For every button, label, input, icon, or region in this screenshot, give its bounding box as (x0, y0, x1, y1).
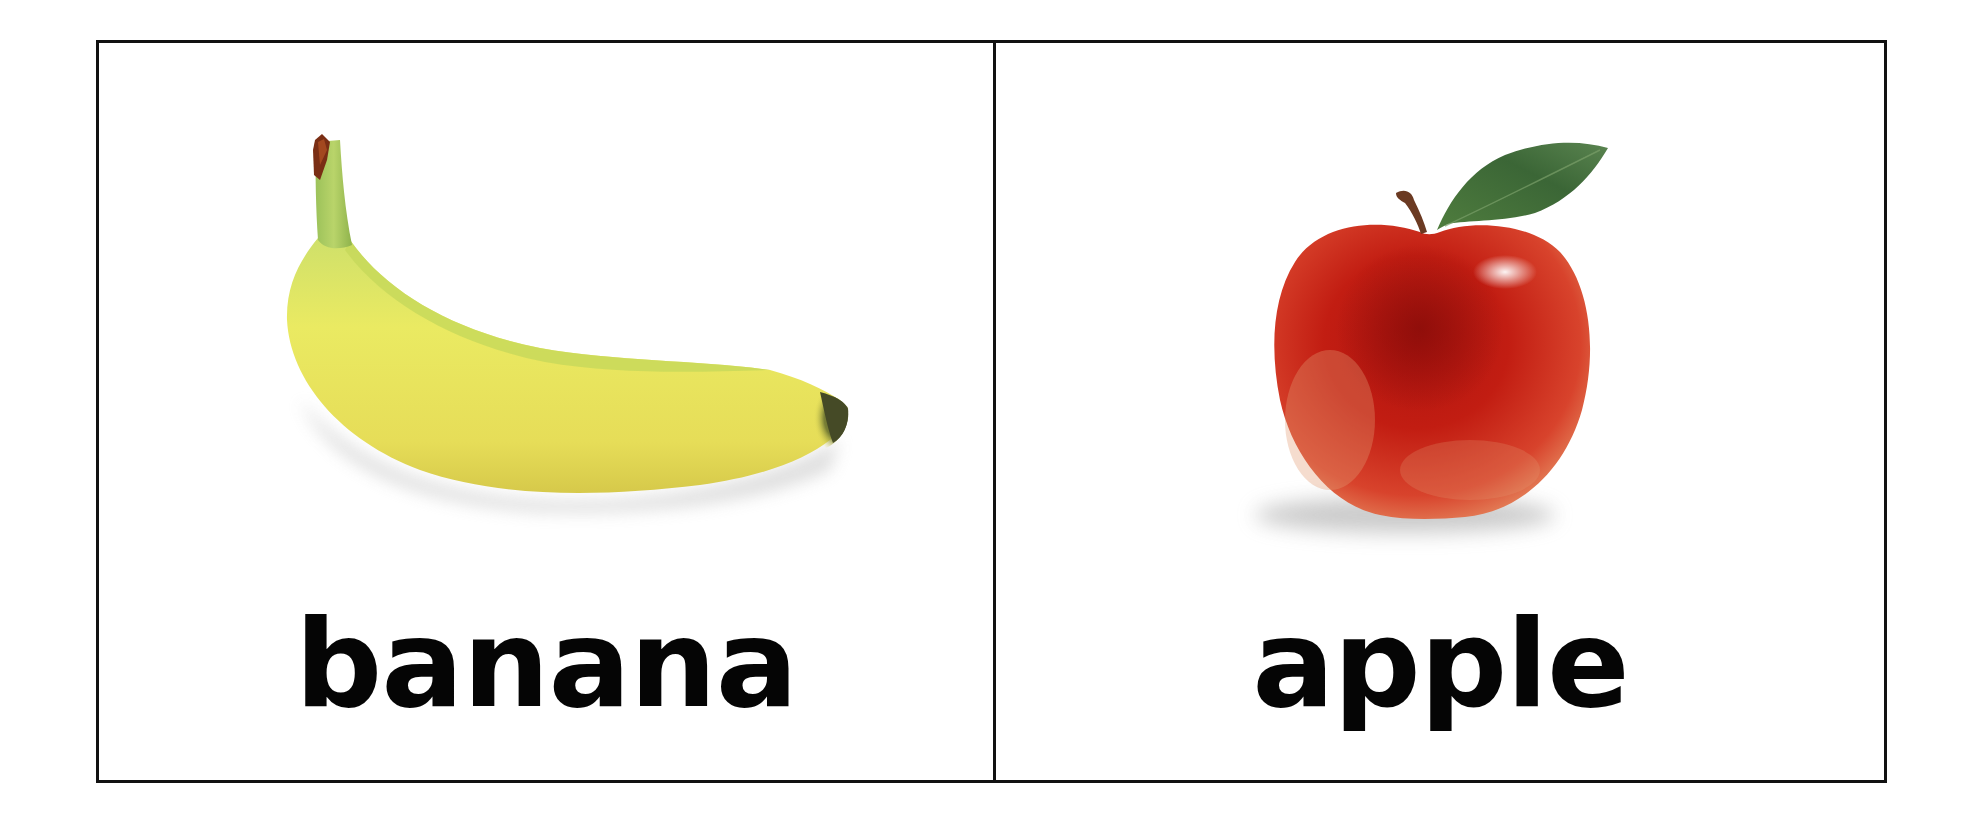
banana-icon (99, 43, 993, 583)
word-label-banana: banana (99, 603, 993, 725)
flashcard-banana: banana (99, 43, 993, 780)
word-label-apple: apple (996, 603, 1885, 725)
flashcard-apple: apple (996, 43, 1885, 780)
apple-icon (996, 43, 1885, 583)
